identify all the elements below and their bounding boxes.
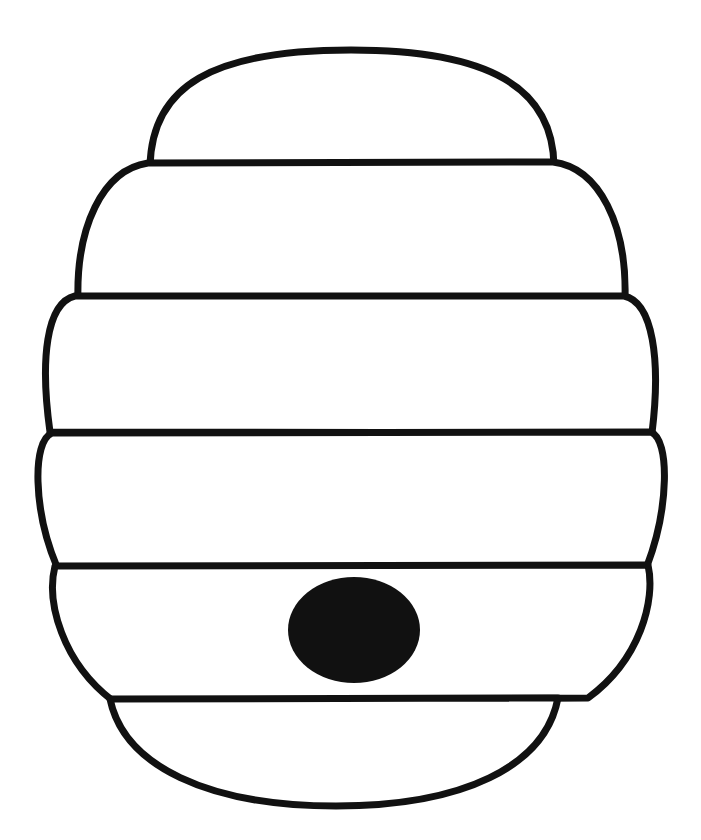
hive-band-2 <box>78 162 625 300</box>
hive-band-4 <box>38 432 665 567</box>
drawing-canvas: Beehive Coloring Page Outline <box>0 0 701 840</box>
beehive-illustration <box>0 0 701 840</box>
hive-band-3 <box>46 296 656 433</box>
hive-entrance-hole-icon <box>288 577 420 683</box>
